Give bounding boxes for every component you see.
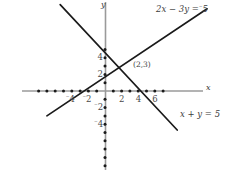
equation-label-line1: 2x − 3y =⁻5: [156, 5, 208, 14]
x-axis-tick-value: 2: [86, 94, 91, 104]
y-axis-tick-value: 4: [98, 52, 103, 62]
y-axis-tick-dot: [104, 148, 107, 151]
y-axis-tick-dot: [104, 131, 107, 134]
x-axis-tick-value: 6: [152, 94, 157, 104]
x-axis-tick-label: ⁻2: [82, 95, 91, 104]
y-axis-tick-dot: [104, 65, 107, 68]
x-axis-tick-label: ⁻4: [66, 95, 75, 104]
x-axis-tick-dot: [145, 90, 148, 93]
axes-group: [22, 2, 203, 170]
y-axis-label: y: [101, 1, 106, 9]
x-axis-tick-dot: [95, 90, 98, 93]
x-axis-tick-dot: [120, 90, 123, 93]
y-axis-tick-value: 4: [98, 119, 103, 129]
graph-canvas: [0, 0, 226, 172]
x-axis-tick-value: 2: [119, 94, 124, 104]
y-axis-tick-value: 2: [98, 69, 103, 79]
y-axis-tick-dot: [104, 114, 107, 117]
y-axis-tick-dot: [104, 81, 107, 84]
x-axis-tick-value: 4: [70, 94, 75, 104]
x-axis-tick-dot: [128, 90, 131, 93]
y-axis-tick-value: 2: [98, 102, 103, 112]
x-axis-tick-dot: [153, 90, 156, 93]
x-axis-tick-label: 2: [119, 95, 124, 104]
y-axis-tick-dot: [104, 56, 107, 59]
equation-label-line2: x + y = 5: [180, 110, 220, 119]
y-axis-tick-dot: [104, 156, 107, 159]
y-axis-tick-dot: [104, 123, 107, 126]
equation-label-line1-rhs: 5: [202, 4, 207, 14]
x-axis-tick-dot: [70, 90, 73, 93]
y-axis-tick-dot: [104, 106, 107, 109]
x-axis-tick-dot: [87, 90, 90, 93]
y-axis-tick-label: 4: [98, 53, 103, 62]
x-axis-label: x: [206, 84, 211, 92]
x-axis-tick-dot: [62, 90, 65, 93]
y-axis-tick-dot: [104, 164, 107, 167]
coordinate-graph-figure: x y 2x − 3y =⁻5 x + y = 5 (2,3) ⁻4⁻2246 …: [0, 0, 226, 172]
intersection-point-label: (2,3): [133, 61, 151, 69]
line-x-plus-y: [60, 5, 177, 130]
x-axis-tick-label: 4: [136, 95, 141, 104]
equation-label-line2-lhs: x + y =: [180, 109, 212, 119]
y-axis-tick-label: ⁻2: [94, 103, 103, 112]
x-axis-tick-dot: [45, 90, 48, 93]
x-axis-tick-dot: [112, 90, 115, 93]
x-axis-tick-value: 4: [136, 94, 141, 104]
x-axis-tick-dot: [162, 90, 165, 93]
equation-label-line1-lhs: 2x − 3y =: [156, 4, 199, 14]
equation-label-line2-rhs: 5: [215, 109, 220, 119]
y-axis-tick-dot: [104, 98, 107, 101]
x-axis-tick-dot: [54, 90, 57, 93]
x-axis-tick-label: 6: [152, 95, 157, 104]
y-axis-tick-label: 2: [98, 70, 103, 79]
y-axis-tick-dot: [104, 139, 107, 142]
y-axis-tick-label: ⁻4: [94, 120, 103, 129]
x-axis-tick-dot: [37, 90, 40, 93]
